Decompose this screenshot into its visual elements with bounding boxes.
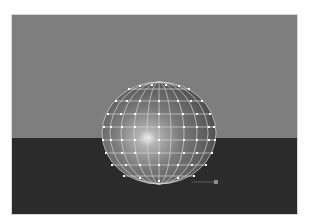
manipulator-handle[interactable] <box>214 180 218 184</box>
sphere-object[interactable] <box>12 15 298 215</box>
3d-viewport[interactable] <box>11 14 298 215</box>
